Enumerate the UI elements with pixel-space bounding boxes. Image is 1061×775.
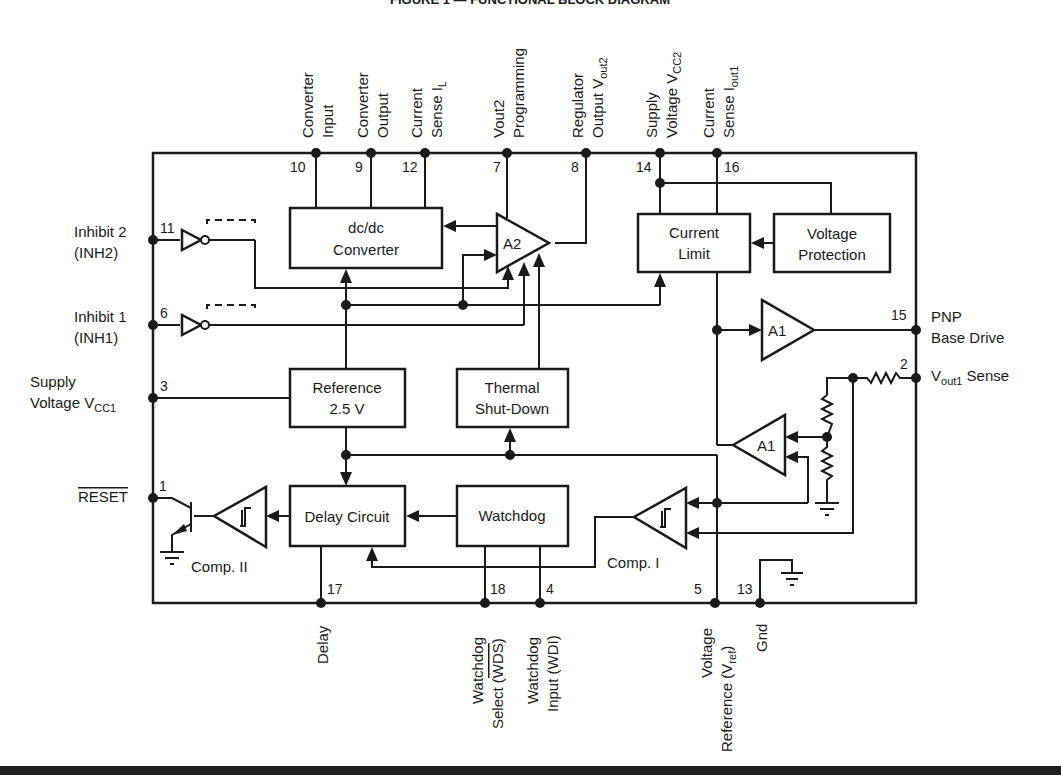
pin-18-label-2: Select (WDS) xyxy=(489,638,506,729)
pin-7-number: 7 xyxy=(493,159,501,175)
svg-text:Converter: Converter xyxy=(333,241,399,258)
pin-16-number: 16 xyxy=(724,159,740,175)
pin-8-label-1: Regulator xyxy=(569,73,586,138)
pin-18-label-1: Watchdog xyxy=(469,637,486,704)
pin-2-number: 2 xyxy=(900,356,908,372)
pin-16-label-2: Sense Iout1 xyxy=(720,66,740,138)
pin-3-label-1: Supply xyxy=(30,373,76,390)
pin-18-number: 18 xyxy=(490,581,506,597)
pin-17-node xyxy=(316,598,326,608)
pin-11-label-1: Inhibit 2 xyxy=(74,223,127,240)
pin-15-label-1: PNP xyxy=(931,308,962,325)
svg-text:Protection: Protection xyxy=(798,246,866,263)
pin-5-label-2: Reference (Vref) xyxy=(718,646,738,752)
page-bottom-rule xyxy=(0,766,1061,775)
pin-8-label-2: Output Vout2 xyxy=(589,57,609,138)
pin-5-label-1: Voltage xyxy=(698,628,715,678)
comparator-comp-i xyxy=(634,488,686,548)
current-limit-block: Current Limit xyxy=(638,214,750,272)
svg-text:Current: Current xyxy=(669,224,720,241)
pin-18-node xyxy=(480,598,490,608)
pin-5-number: 5 xyxy=(694,581,702,597)
amplifier-a1-bottom: A1 xyxy=(733,415,785,475)
svg-text:A1: A1 xyxy=(757,437,775,454)
svg-text:Thermal: Thermal xyxy=(484,379,539,396)
pin-9-label-2: Output xyxy=(374,92,391,138)
pin-4-number: 4 xyxy=(546,581,554,597)
svg-text:Voltage: Voltage xyxy=(807,225,857,242)
pin-12-label-1: Current xyxy=(408,87,425,138)
pin-17-label: Delay xyxy=(314,625,331,664)
svg-text:A1: A1 xyxy=(768,322,786,339)
figure-title: FIGURE 1 — FUNCTIONAL BLOCK DIAGRAM xyxy=(390,0,670,7)
pin-3-number: 3 xyxy=(160,378,168,394)
svg-text:Delay Circuit: Delay Circuit xyxy=(304,508,390,525)
pin-12-label-2: Sense IL xyxy=(428,81,448,138)
svg-text:Limit: Limit xyxy=(678,245,711,262)
pin-15-number: 15 xyxy=(891,307,907,323)
pin-15-node xyxy=(911,325,921,335)
pin-6-label-1: Inhibit 1 xyxy=(74,308,127,325)
pin-14-label-2: Voltage VCC2 xyxy=(663,52,683,138)
pin-4-label-2: Input (WDI) xyxy=(544,635,561,712)
pin-1-label: RESET xyxy=(78,488,128,505)
pin-10-number: 10 xyxy=(290,159,306,175)
pin-15-label-2: Base Drive xyxy=(931,329,1004,346)
pin-11-number: 11 xyxy=(160,220,175,236)
pin-9-number: 9 xyxy=(355,159,363,175)
pin-8-number: 8 xyxy=(571,159,579,175)
pin-3-label-2: Voltage VCC1 xyxy=(30,394,116,414)
pin-11-label-2: (INH2) xyxy=(74,244,118,261)
pin-3-node xyxy=(148,393,158,403)
pin-9-label-1: Converter xyxy=(354,72,371,138)
pin-4-label-1: Watchdog xyxy=(524,637,541,704)
pin-12-number: 12 xyxy=(402,159,418,175)
pin-6-label-2: (INH1) xyxy=(74,329,118,346)
pin-10-label-2: Input xyxy=(319,104,336,138)
dcdc-converter-block: dc/dc Converter xyxy=(290,208,442,268)
pin-4-node xyxy=(535,598,545,608)
pin-6-node xyxy=(148,320,158,330)
svg-text:Reference: Reference xyxy=(312,379,381,396)
functional-block-diagram: FIGURE 1 — FUNCTIONAL BLOCK DIAGRAM 10 C… xyxy=(0,0,1061,775)
pin-13-label: Gnd xyxy=(753,624,770,652)
pin-14-number: 14 xyxy=(636,159,652,175)
pin-2-label: Vout1 Sense xyxy=(931,367,1009,387)
pin-13-number: 13 xyxy=(737,581,753,597)
svg-text:Shut-Down: Shut-Down xyxy=(475,400,549,417)
svg-text:Watchdog: Watchdog xyxy=(479,507,546,524)
svg-text:dc/dc: dc/dc xyxy=(348,219,384,236)
svg-text:A2: A2 xyxy=(503,235,521,252)
pin-1-number: 1 xyxy=(159,478,167,494)
delay-circuit-block: Delay Circuit xyxy=(290,486,405,546)
svg-text:2.5 V: 2.5 V xyxy=(329,400,364,417)
pin-11-node xyxy=(148,235,158,245)
pin-7-label-1: Vout2 xyxy=(490,100,507,138)
comparator-comp-ii xyxy=(214,487,266,547)
pin-7-label-2: Programming xyxy=(510,48,527,138)
pin-5-node xyxy=(710,598,720,608)
comp-ii-label: Comp. II xyxy=(191,558,248,575)
watchdog-block: Watchdog xyxy=(457,486,568,546)
pin-1-node xyxy=(148,493,158,503)
voltage-protection-block: Voltage Protection xyxy=(774,214,890,272)
pin-14-label-1: Supply xyxy=(643,92,660,138)
comp-i-label: Comp. I xyxy=(607,554,660,571)
amplifier-a1-top: A1 xyxy=(762,300,814,360)
pin-16-label-1: Current xyxy=(700,87,717,138)
reference-block: Reference 2.5 V xyxy=(290,369,405,427)
pin-6-number: 6 xyxy=(160,305,168,321)
pin-10-label-1: Converter xyxy=(299,72,316,138)
thermal-shutdown-block: Thermal Shut-Down xyxy=(457,369,568,427)
pin-17-number: 17 xyxy=(327,581,343,597)
